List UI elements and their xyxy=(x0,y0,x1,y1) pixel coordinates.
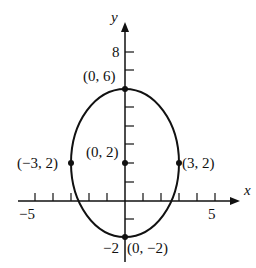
x-tick-label-5: 5 xyxy=(208,206,216,222)
point-label-0-6: (0, 6) xyxy=(83,68,116,85)
x-tick-label-neg5: −5 xyxy=(19,206,35,222)
y-axis-label: y xyxy=(109,9,118,25)
x-axis-label: x xyxy=(243,182,251,198)
y-axis-arrow-icon xyxy=(121,22,129,32)
point-label-neg3-2: (−3, 2) xyxy=(17,155,58,172)
point-label-0-neg2: (0, −2) xyxy=(127,240,168,257)
y-ticks xyxy=(125,52,134,219)
point-label-0-2: (0, 2) xyxy=(86,144,119,161)
point-label-3-2: (3, 2) xyxy=(182,155,215,172)
ellipse-chart: x y −5 5 8 −2 (0, 6) (0, 2) (−3, 2) (3, … xyxy=(0,0,256,268)
y-tick-label-neg2: −2 xyxy=(103,240,119,256)
x-axis-arrow-icon xyxy=(230,197,240,205)
y-tick-label-8: 8 xyxy=(112,44,120,60)
